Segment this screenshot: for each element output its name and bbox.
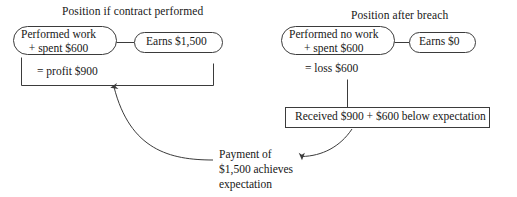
arrow-result-to-note xyxy=(302,129,352,157)
left-main-node-label: Performed work + spent $600 xyxy=(21,28,96,55)
left-bracket-total-label: = profit $900 xyxy=(37,65,98,79)
right-main-node-line2: + spent $600 xyxy=(289,42,378,56)
diagram-canvas: Position if contract performed Position … xyxy=(0,0,517,197)
payment-note-line1: Payment of xyxy=(219,147,293,162)
right-panel-title: Position after breach xyxy=(351,9,448,23)
left-side-node-label: Earns $1,500 xyxy=(146,35,207,49)
arrow-note-to-left-bracket xyxy=(114,87,213,160)
right-side-node-label: Earns $0 xyxy=(419,35,460,49)
right-main-node-line1: Performed no work xyxy=(289,28,378,40)
payment-note: Payment of $1,500 achieves expectation xyxy=(219,147,293,193)
right-main-node-label: Performed no work + spent $600 xyxy=(289,28,378,55)
left-main-node-line2: + spent $600 xyxy=(21,42,96,56)
right-sum-total-label: = loss $600 xyxy=(305,62,358,76)
left-panel-title: Position if contract performed xyxy=(62,5,203,19)
payment-note-line2: $1,500 achieves xyxy=(219,162,293,177)
payment-note-line3: expectation xyxy=(219,177,293,192)
result-box-label: Received $900 + $600 below expectation xyxy=(295,110,486,124)
left-main-node-line1: Performed work xyxy=(21,28,96,40)
